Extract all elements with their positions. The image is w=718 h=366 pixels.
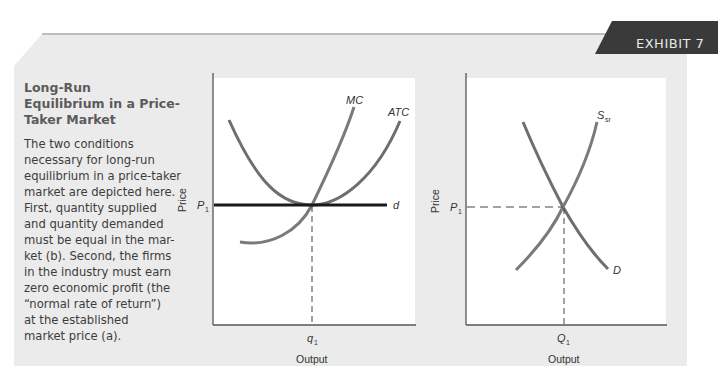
- caption-line: and quantity demanded: [24, 216, 202, 232]
- caption-title-line: Equilibrium in a Price-: [24, 96, 194, 112]
- caption-line: in the industry must earn: [24, 264, 202, 280]
- ssr-label: S: [597, 109, 605, 121]
- ssr-sub: sr: [605, 116, 612, 123]
- caption-line: zero economic profit (the: [24, 280, 202, 296]
- caption-line: equilibrium in a price-taker: [24, 168, 202, 184]
- exhibit-panel: MC ATC d P 1 q 1 Output Price S sr D P 1: [0, 0, 718, 366]
- chart-b-xlabel: Output: [548, 353, 580, 365]
- atc-label: ATC: [387, 106, 409, 118]
- caption-line: necessary for long-run: [24, 152, 202, 168]
- caption-line: ket (b). Second, the firms: [24, 248, 202, 264]
- caption-line: must be equal in the mar-: [24, 232, 202, 248]
- caption-title-line: Long-Run: [24, 80, 194, 96]
- caption-line: market price (a).: [24, 328, 202, 344]
- caption-line: “normal rate of return”): [24, 296, 202, 312]
- chart-b-ylabel: Price: [429, 189, 441, 213]
- Q1-label: Q: [557, 332, 566, 344]
- caption-title-line: Taker Market: [24, 112, 194, 128]
- caption-line: The two conditions: [24, 136, 202, 152]
- p1-sub-b: 1: [458, 208, 462, 215]
- q1-sub: 1: [314, 339, 318, 346]
- D-label: D: [613, 264, 621, 276]
- caption-line: at the established: [24, 312, 202, 328]
- caption-title: Long-Run Equilibrium in a Price- Taker M…: [24, 80, 194, 128]
- caption-line: First, quantity supplied: [24, 200, 202, 216]
- caption-body: The two conditions necessary for long-ru…: [24, 136, 202, 344]
- chart-a-xlabel: Output: [296, 353, 328, 365]
- Q1-sub: 1: [566, 339, 570, 346]
- p1-label-b: P: [450, 201, 458, 213]
- d-label: d: [393, 199, 400, 211]
- exhibit-label: EXHIBIT 7: [636, 36, 704, 51]
- mc-label: MC: [346, 94, 363, 106]
- q1-label: q: [307, 332, 314, 344]
- p1-sub-a: 1: [205, 206, 209, 213]
- caption-line: market are depicted here.: [24, 184, 202, 200]
